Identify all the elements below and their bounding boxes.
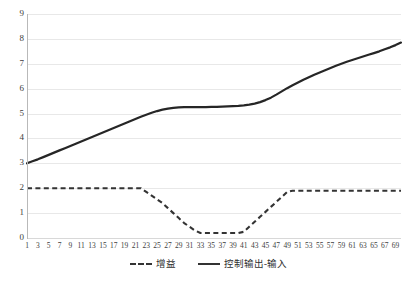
x-axis-tick-label: 67: [381, 240, 389, 251]
x-axis-tick-label: 35: [208, 240, 216, 251]
x-axis-tick-label: 37: [218, 240, 226, 251]
y-axis-tick-label: 0: [2, 233, 24, 242]
series-line-control-output-input: [27, 43, 401, 164]
legend-label-control-output-input: 控制输出-输入: [224, 258, 287, 270]
legend-label-gain: 增益: [156, 258, 176, 270]
plot-area: [27, 14, 401, 238]
x-axis-tick-label: 23: [143, 240, 151, 251]
x-axis-tick-label: 7: [58, 240, 62, 251]
y-axis-tick-label: 7: [2, 59, 24, 68]
x-axis-tick-label: 45: [262, 240, 270, 251]
x-axis-tick-label: 31: [186, 240, 194, 251]
x-axis-tick-label: 21: [132, 240, 140, 251]
x-axis-tick-label: 59: [338, 240, 346, 251]
y-axis-tick-label: 8: [2, 34, 24, 43]
x-axis-tick-label: 63: [359, 240, 367, 251]
x-axis-tick-label: 65: [370, 240, 378, 251]
legend-swatch-solid-icon: [198, 263, 220, 265]
legend-swatch-dashed-icon: [130, 263, 152, 265]
x-axis-tick-label: 9: [68, 240, 72, 251]
x-axis-tick-label: 69: [392, 240, 400, 251]
x-axis-tick-label: 13: [88, 240, 96, 251]
y-axis-tick-label: 6: [2, 84, 24, 93]
x-axis-tick-label: 15: [99, 240, 107, 251]
x-axis-tick-label: 39: [229, 240, 237, 251]
legend-item-gain[interactable]: 增益: [130, 258, 176, 270]
x-axis-tick-label: 1: [25, 240, 29, 251]
x-axis-tick-label: 61: [348, 240, 356, 251]
x-axis-tick-label: 17: [110, 240, 118, 251]
y-axis-line: [27, 14, 28, 239]
gridline: [27, 238, 401, 239]
x-axis-tick-label: 11: [78, 240, 85, 251]
y-axis-tick-label: 5: [2, 109, 24, 118]
line-chart: 0123456789 13579111315171921232527293133…: [0, 0, 417, 287]
series-line-gain: [27, 188, 401, 233]
x-axis-tick-label: 43: [251, 240, 259, 251]
legend-item-control-output-input[interactable]: 控制输出-输入: [198, 258, 287, 270]
y-axis-tick-label: 4: [2, 133, 24, 142]
y-axis-tick-label: 9: [2, 9, 24, 18]
x-axis-tick-label: 55: [316, 240, 324, 251]
y-axis-tick-label: 3: [2, 158, 24, 167]
series-layer: [27, 14, 401, 238]
x-axis-tick-label: 47: [273, 240, 281, 251]
x-axis-tick-label: 29: [175, 240, 183, 251]
x-axis-tick-label: 41: [240, 240, 248, 251]
x-axis-tick-label: 51: [294, 240, 302, 251]
x-axis-tick-label: 25: [153, 240, 161, 251]
chart-legend: 增益 控制输出-输入: [0, 258, 417, 270]
y-axis-tick-label: 1: [2, 208, 24, 217]
y-axis-ticks: 0123456789: [0, 14, 24, 238]
x-axis-tick-label: 33: [197, 240, 205, 251]
y-axis-tick-label: 2: [2, 183, 24, 192]
x-axis-tick-label: 49: [283, 240, 291, 251]
x-axis-tick-label: 57: [327, 240, 335, 251]
x-axis-tick-label: 5: [47, 240, 51, 251]
x-axis-tick-label: 53: [305, 240, 313, 251]
x-axis-tick-label: 19: [121, 240, 129, 251]
x-axis-ticks: 1357911131517192123252729313335373941434…: [27, 240, 401, 252]
x-axis-tick-label: 27: [164, 240, 172, 251]
x-axis-tick-label: 3: [36, 240, 40, 251]
